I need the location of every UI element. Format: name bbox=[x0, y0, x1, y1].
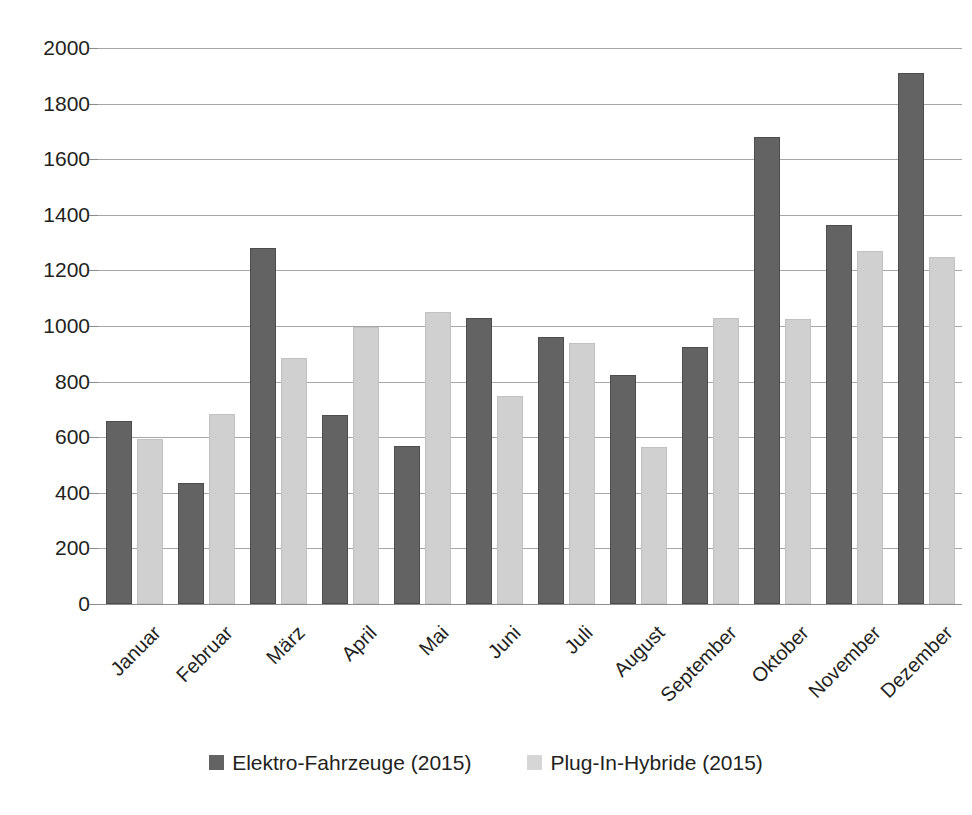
bar-november-series-0[interactable] bbox=[826, 225, 852, 604]
chart-legend: Elektro-Fahrzeuge (2015)Plug-In-Hybride … bbox=[0, 752, 972, 773]
bar-november-series-1[interactable] bbox=[857, 251, 883, 604]
x-axis-tick-label: September bbox=[657, 622, 740, 705]
y-axis-tick-label: 1600 bbox=[8, 148, 90, 169]
legend-item[interactable]: Elektro-Fahrzeuge (2015) bbox=[209, 752, 471, 773]
bar-september-series-0[interactable] bbox=[682, 347, 708, 604]
bar-märz-series-0[interactable] bbox=[250, 248, 276, 604]
bar-mai-series-0[interactable] bbox=[394, 446, 420, 604]
bar-juni-series-1[interactable] bbox=[497, 396, 523, 605]
y-axis-tick-label: 0 bbox=[8, 593, 90, 614]
x-axis-tick-label: Juli bbox=[561, 622, 596, 657]
x-axis-tick-label: Mai bbox=[415, 622, 452, 659]
bar-group bbox=[530, 48, 602, 604]
bar-chart: 2000180016001400120010008006004002000 Ja… bbox=[0, 0, 972, 815]
bar-group bbox=[386, 48, 458, 604]
bar-group bbox=[170, 48, 242, 604]
y-axis-tick-mark bbox=[89, 604, 98, 605]
bar-september-series-1[interactable] bbox=[713, 318, 739, 604]
bar-group bbox=[98, 48, 170, 604]
y-axis-tick-label: 1200 bbox=[8, 259, 90, 280]
y-axis-tick-label: 600 bbox=[8, 426, 90, 447]
x-axis-tick-label: März bbox=[263, 622, 309, 668]
x-axis-tick-label: Februar bbox=[172, 622, 236, 686]
bar-april-series-1[interactable] bbox=[353, 327, 379, 604]
y-axis-tick-mark bbox=[89, 493, 98, 494]
y-axis-tick-mark bbox=[89, 270, 98, 271]
bar-groups bbox=[98, 48, 962, 604]
x-axis-tick-label: November bbox=[805, 622, 884, 701]
bar-april-series-0[interactable] bbox=[322, 415, 348, 604]
bar-januar-series-1[interactable] bbox=[137, 439, 163, 604]
y-axis-tick-mark bbox=[89, 326, 98, 327]
bar-juli-series-0[interactable] bbox=[538, 337, 564, 604]
legend-swatch-icon bbox=[209, 755, 224, 770]
bar-februar-series-1[interactable] bbox=[209, 414, 235, 604]
legend-item[interactable]: Plug-In-Hybride (2015) bbox=[527, 752, 762, 773]
y-axis: 2000180016001400120010008006004002000 bbox=[0, 0, 90, 815]
bar-dezember-series-1[interactable] bbox=[929, 257, 955, 605]
y-axis-tick-mark bbox=[89, 104, 98, 105]
bar-februar-series-0[interactable] bbox=[178, 483, 204, 604]
bar-group bbox=[674, 48, 746, 604]
y-axis-tick-label: 200 bbox=[8, 537, 90, 558]
legend-label: Plug-In-Hybride (2015) bbox=[550, 752, 762, 773]
bar-august-series-1[interactable] bbox=[641, 447, 667, 604]
bar-group bbox=[890, 48, 962, 604]
x-axis-labels: JanuarFebruarMärzAprilMaiJuniJuliAugustS… bbox=[98, 604, 962, 724]
y-axis-tick-mark bbox=[89, 437, 98, 438]
bar-märz-series-1[interactable] bbox=[281, 358, 307, 604]
bar-dezember-series-0[interactable] bbox=[898, 73, 924, 604]
bar-group bbox=[746, 48, 818, 604]
bar-group bbox=[458, 48, 530, 604]
y-axis-tick-label: 2000 bbox=[8, 37, 90, 58]
y-axis-tick-label: 800 bbox=[8, 371, 90, 392]
bar-mai-series-1[interactable] bbox=[425, 312, 451, 604]
bar-group bbox=[314, 48, 386, 604]
y-axis-tick-mark bbox=[89, 548, 98, 549]
bar-group bbox=[242, 48, 314, 604]
bar-januar-series-0[interactable] bbox=[106, 421, 132, 604]
x-axis-tick-label: August bbox=[610, 622, 668, 680]
y-axis-tick-label: 1400 bbox=[8, 204, 90, 225]
bar-juni-series-0[interactable] bbox=[466, 318, 492, 604]
plot-area bbox=[98, 48, 962, 604]
bar-group bbox=[818, 48, 890, 604]
bar-oktober-series-0[interactable] bbox=[754, 137, 780, 604]
legend-label: Elektro-Fahrzeuge (2015) bbox=[232, 752, 471, 773]
x-axis-tick-label: Juni bbox=[484, 622, 524, 662]
x-axis-tick-label: April bbox=[338, 622, 380, 664]
legend-swatch-icon bbox=[527, 755, 542, 770]
bar-juli-series-1[interactable] bbox=[569, 343, 595, 604]
y-axis-tick-mark bbox=[89, 159, 98, 160]
bar-august-series-0[interactable] bbox=[610, 375, 636, 604]
y-axis-tick-mark bbox=[89, 382, 98, 383]
bar-group bbox=[602, 48, 674, 604]
bar-oktober-series-1[interactable] bbox=[785, 319, 811, 604]
x-axis-tick-label: Dezember bbox=[877, 622, 956, 701]
x-axis-tick-label: Oktober bbox=[748, 622, 812, 686]
y-axis-tick-mark bbox=[89, 48, 98, 49]
x-axis-tick-label: Januar bbox=[107, 622, 164, 679]
y-axis-tick-label: 1000 bbox=[8, 315, 90, 336]
y-axis-tick-label: 400 bbox=[8, 482, 90, 503]
y-axis-tick-label: 1800 bbox=[8, 93, 90, 114]
y-axis-tick-mark bbox=[89, 215, 98, 216]
